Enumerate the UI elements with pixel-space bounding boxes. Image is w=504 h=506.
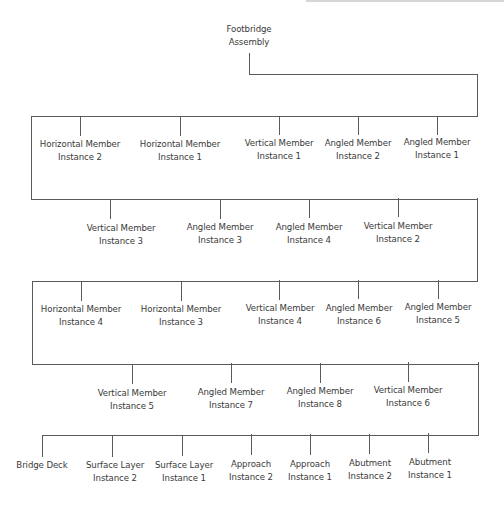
connector-line [358, 280, 359, 299]
node-label-line2: Instance 4 [41, 316, 121, 329]
node-label-line1: Angled Member [276, 221, 343, 234]
node-label-line1: Vertical Member [98, 387, 167, 400]
node-vertical-member-3: Vertical Member Instance 3 [87, 222, 156, 248]
connector-line [309, 199, 310, 218]
node-label-line1: Approach [229, 458, 273, 471]
connector-line [31, 116, 478, 117]
node-label-line2: Instance 7 [198, 399, 265, 412]
node-label-line1: Abutment [408, 456, 452, 469]
node-vertical-member-1: Vertical Member Instance 1 [245, 137, 314, 163]
connector-line [220, 199, 221, 219]
node-label-line2: Instance 1 [245, 150, 314, 163]
connector-line [32, 364, 479, 365]
node-approach-2: Approach Instance 2 [229, 458, 273, 484]
node-angled-member-7: Angled Member Instance 7 [198, 386, 265, 412]
node-angled-member-3: Angled Member Instance 3 [187, 221, 254, 247]
connector-line [42, 435, 43, 457]
connector-line [32, 281, 33, 365]
node-angled-member-5: Angled Member Instance 5 [405, 301, 472, 327]
node-horizontal-member-4: Horizontal Member Instance 4 [41, 303, 121, 329]
node-label-line1: Approach [288, 458, 332, 471]
node-label-line1: Horizontal Member [40, 138, 120, 151]
node-vertical-member-2: Vertical Member Instance 2 [364, 220, 433, 246]
node-horizontal-member-2: Horizontal Member Instance 2 [40, 138, 120, 164]
node-label-line1: Surface Layer [86, 459, 144, 472]
node-label-line2: Instance 2 [348, 470, 392, 483]
node-label-line2: Instance 4 [276, 234, 343, 247]
node-footbridge-assembly: Footbridge Assembly [226, 23, 271, 49]
node-label-line2: Instance 1 [288, 471, 332, 484]
connector-line [80, 116, 81, 136]
node-label-line2: Instance 1 [404, 149, 471, 162]
node-label-line1: Vertical Member [87, 222, 156, 235]
node-vertical-member-4: Vertical Member Instance 4 [246, 302, 315, 328]
node-label-line2: Instance 3 [187, 234, 254, 247]
node-label-line1: Vertical Member [364, 220, 433, 233]
node-label-line1: Angled Member [198, 386, 265, 399]
node-label-line2: Assembly [226, 36, 271, 49]
connector-line [437, 116, 438, 135]
connector-line [112, 435, 113, 457]
node-label-line1: Abutment [348, 457, 392, 470]
connector-line [438, 280, 439, 299]
node-label-line1: Bridge Deck [16, 459, 67, 472]
node-angled-member-6: Angled Member Instance 6 [326, 302, 393, 328]
connector-line [110, 199, 111, 219]
connector-line [180, 116, 181, 136]
node-angled-member-2: Angled Member Instance 2 [325, 137, 392, 163]
connector-line [477, 198, 478, 282]
top-edge-bar [306, 0, 504, 2]
node-label-line1: Horizontal Member [140, 138, 220, 151]
node-label-line1: Surface Layer [155, 459, 213, 472]
node-label-line1: Vertical Member [374, 384, 443, 397]
node-label-line1: Vertical Member [245, 137, 314, 150]
node-abutment-1: Abutment Instance 1 [408, 456, 452, 482]
node-abutment-2: Abutment Instance 2 [348, 457, 392, 483]
node-label-line1: Angled Member [405, 301, 472, 314]
connector-line [279, 116, 280, 135]
node-label-line1: Angled Member [287, 385, 354, 398]
node-angled-member-8: Angled Member Instance 8 [287, 385, 354, 411]
node-horizontal-member-1: Horizontal Member Instance 1 [140, 138, 220, 164]
connector-line [31, 116, 32, 200]
node-horizontal-member-3: Horizontal Member Instance 3 [141, 303, 221, 329]
node-label-line2: Instance 1 [408, 469, 452, 482]
connector-line [251, 434, 252, 455]
node-label-line2: Instance 4 [246, 315, 315, 328]
node-label-line1: Angled Member [326, 302, 393, 315]
node-label-line1: Vertical Member [246, 302, 315, 315]
node-bridge-deck: Bridge Deck [16, 459, 67, 472]
node-label-line2: Instance 2 [86, 472, 144, 485]
connector-line [182, 435, 183, 456]
connector-line [358, 116, 359, 135]
node-vertical-member-5: Vertical Member Instance 5 [98, 387, 167, 413]
connector-line [428, 433, 429, 453]
node-label-line2: Instance 6 [326, 315, 393, 328]
node-label-line1: Horizontal Member [141, 303, 221, 316]
connector-line [81, 281, 82, 301]
node-label-line2: Instance 2 [325, 150, 392, 163]
node-label-line2: Instance 2 [40, 151, 120, 164]
node-label-line2: Instance 5 [98, 400, 167, 413]
connector-line [398, 198, 399, 217]
connector-line [231, 363, 232, 383]
connector-line [478, 362, 479, 435]
node-label-line2: Instance 2 [229, 471, 273, 484]
node-angled-member-1: Angled Member Instance 1 [404, 136, 471, 162]
node-label-line2: Instance 1 [155, 472, 213, 485]
node-label-line1: Footbridge [226, 23, 271, 36]
node-label-line2: Instance 3 [141, 316, 221, 329]
node-label-line2: Instance 1 [140, 151, 220, 164]
node-label-line2: Instance 5 [405, 314, 472, 327]
node-label-line2: Instance 6 [374, 397, 443, 410]
connector-line [477, 74, 478, 117]
connector-line [320, 363, 321, 383]
node-approach-1: Approach Instance 1 [288, 458, 332, 484]
node-label-line1: Angled Member [187, 221, 254, 234]
node-angled-member-4: Angled Member Instance 4 [276, 221, 343, 247]
node-surface-layer-1: Surface Layer Instance 1 [155, 459, 213, 485]
node-label-line1: Angled Member [325, 137, 392, 150]
connector-line [369, 434, 370, 454]
connector-line [249, 53, 250, 75]
connector-line [279, 280, 280, 300]
